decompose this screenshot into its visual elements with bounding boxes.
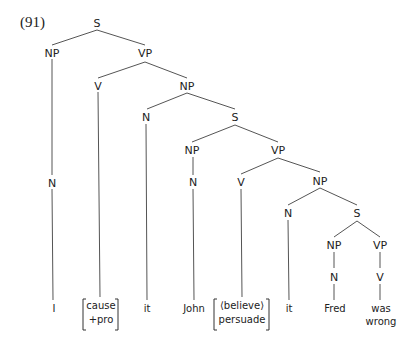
node-vp-embedded1: VP [271, 144, 286, 157]
leaf-i: I [53, 303, 56, 314]
tree-edges [52, 30, 380, 300]
node-np-fred: NP [327, 239, 342, 252]
example-number: (91) [20, 14, 45, 31]
node-np-john: NP [185, 144, 200, 157]
leaf-persuade: persuade [219, 314, 266, 325]
leaf-was: was [371, 303, 391, 314]
leaf-believe: ⟨believe⟩ [220, 300, 264, 311]
node-s-embedded1: S [232, 111, 239, 124]
node-v-was-wrong: V [376, 271, 384, 284]
leaf-cause: cause [86, 300, 115, 311]
node-s-root: S [94, 17, 101, 30]
node-n-it1: N [142, 111, 150, 124]
node-v-believe: V [237, 176, 245, 189]
node-vp-main: VP [138, 47, 153, 60]
node-n-subject: N [48, 177, 56, 190]
node-n-it2: N [284, 207, 292, 220]
leaf-john: John [182, 303, 205, 314]
node-n-john: N [189, 176, 197, 189]
node-s-embedded2: S [354, 207, 361, 220]
leaf-wrong: wrong [366, 316, 397, 327]
leaf-fred: Fred [324, 303, 345, 314]
leaf-it2: it [286, 303, 293, 314]
right-bracket [266, 299, 269, 330]
syntax-tree-diagram: (91) S NP VP N V NP N [0, 0, 415, 350]
node-np-embedded: NP [313, 175, 328, 188]
left-bracket [214, 299, 217, 330]
node-v-cause: V [94, 80, 102, 93]
node-vp-embedded2: VP [373, 239, 388, 252]
node-np-subject: NP [45, 47, 60, 60]
leaf-it1: it [144, 303, 151, 314]
leaf-plus-pro: +pro [89, 314, 114, 325]
node-n-fred: N [330, 271, 338, 284]
node-np-object: NP [180, 80, 195, 93]
